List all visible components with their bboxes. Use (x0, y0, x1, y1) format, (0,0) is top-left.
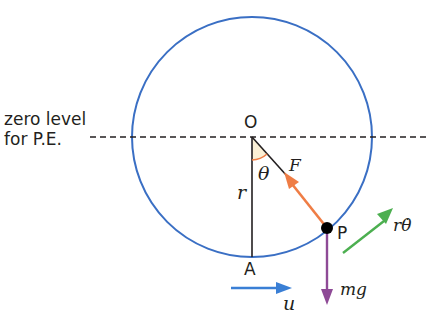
tangential-velocity-arrow (343, 221, 384, 253)
particle-P (321, 222, 333, 234)
point-A-label: A (244, 260, 256, 278)
tangential-velocity-label: rθ̇ (393, 216, 411, 234)
tangential-velocity-arrowhead (377, 208, 393, 224)
force-label: F (289, 156, 301, 174)
zero-level-label-line1: zero level (4, 110, 86, 128)
force-arrow (292, 184, 327, 228)
radius-label: r (237, 183, 246, 201)
point-O-label: O (244, 113, 257, 131)
point-P-label: P (337, 224, 347, 242)
velocity-u-label: u (283, 294, 295, 312)
weight-label: mg (340, 280, 367, 298)
weight-arrowhead (321, 289, 333, 305)
diagram-canvas (0, 0, 435, 326)
zero-level-label-line2: for P.E. (4, 130, 62, 148)
angle-label: θ (258, 164, 269, 182)
